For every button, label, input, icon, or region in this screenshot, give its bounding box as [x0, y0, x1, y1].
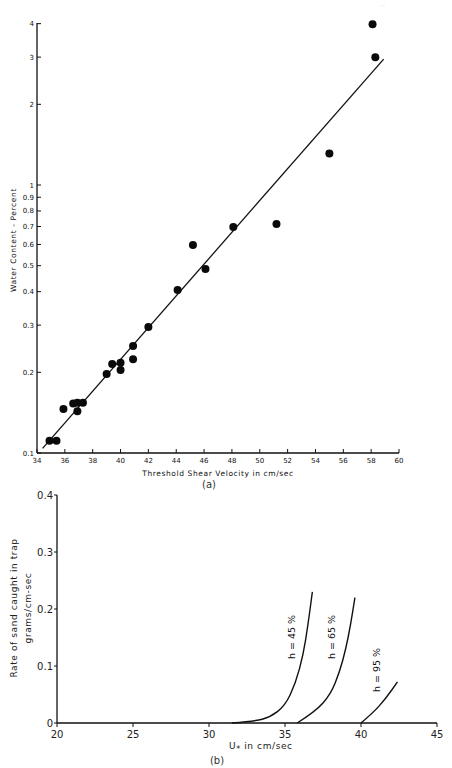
data-point	[229, 223, 237, 231]
y-tick-label-a: 0.6	[23, 241, 35, 249]
data-point	[325, 150, 333, 158]
curve-45	[232, 592, 313, 723]
y-axis-unit-b: grams/cm-sec	[23, 573, 33, 644]
y-tick-label-b: 0.4	[37, 490, 53, 501]
x-tick-label-a: 40	[116, 457, 125, 465]
x-tick-label-a: 48	[227, 457, 236, 465]
x-axis-title-a: Threshold Shear Velocity in cm/sec	[141, 469, 294, 478]
y-tick-label-a: 0.5	[23, 262, 34, 270]
curve-label: h = 45 %	[286, 615, 297, 659]
data-points-a	[46, 20, 380, 445]
data-point	[46, 437, 54, 445]
x-tick-label-b: 35	[279, 729, 292, 740]
data-point	[117, 366, 125, 374]
data-point	[52, 437, 60, 445]
y-ticks-b: 00.10.20.30.4	[37, 490, 57, 729]
x-ticks-b: 202530354045	[51, 723, 444, 740]
fit-line	[43, 59, 384, 448]
data-point	[73, 407, 81, 415]
chart-a: 0.10.20.30.40.50.60.70.80.91234 34363840…	[9, 20, 403, 490]
x-tick-label-a: 34	[33, 457, 42, 465]
data-point	[79, 399, 87, 407]
x-tick-label-a: 38	[88, 457, 97, 465]
data-point	[129, 355, 137, 363]
x-tick-label-b: 25	[127, 729, 140, 740]
data-point	[129, 342, 137, 350]
y-tick-label-a: 4	[30, 20, 35, 28]
y-tick-label-a: 0.2	[23, 369, 34, 377]
y-tick-label-b: 0.2	[37, 604, 53, 615]
y-tick-label-a: 3	[30, 54, 34, 62]
y-tick-label-b: 0.1	[37, 661, 53, 672]
data-point	[117, 359, 125, 367]
faint-header-text: ...	[380, 0, 386, 7]
y-tick-label-a: 0.9	[23, 194, 34, 202]
x-ticks-a: 3436384042444648505254565860	[33, 449, 404, 465]
y-tick-label-a: 1	[30, 182, 34, 190]
x-tick-label-a: 46	[200, 457, 209, 465]
curve-label: h = 95 %	[371, 648, 382, 692]
y-ticks-a: 0.10.20.30.40.50.60.70.80.91234	[23, 20, 41, 457]
data-point	[103, 370, 111, 378]
x-tick-label-a: 60	[395, 457, 404, 465]
x-tick-label-a: 36	[60, 457, 69, 465]
data-point	[272, 220, 280, 228]
x-tick-label-a: 52	[283, 457, 292, 465]
data-point	[369, 20, 377, 28]
data-point	[371, 53, 379, 61]
y-axis-title-a: Water Content - Percent	[9, 188, 18, 292]
data-point	[144, 323, 152, 331]
x-tick-label-b: 30	[203, 729, 216, 740]
data-point	[189, 241, 197, 249]
y-tick-label-a: 0.7	[23, 223, 34, 231]
curve-label: h = 65 %	[326, 615, 337, 659]
y-tick-label-b: 0.3	[37, 547, 53, 558]
caption-a: (a)	[202, 479, 216, 490]
x-tick-label-a: 44	[172, 457, 181, 465]
data-point	[174, 286, 182, 294]
x-tick-label-a: 58	[367, 457, 376, 465]
caption-b: (b)	[210, 755, 224, 766]
x-tick-label-b: 40	[355, 729, 368, 740]
figure: ... 0.10.20.30.40.50.60.70.80.91234 3436…	[0, 0, 452, 768]
data-point	[108, 360, 116, 368]
x-tick-label-b: 45	[431, 729, 444, 740]
y-tick-label-a: 0.3	[23, 322, 34, 330]
y-tick-label-a: 0.4	[23, 288, 35, 296]
x-tick-label-a: 50	[255, 457, 264, 465]
y-axis-title-b: Rate of sand caught in trap	[9, 538, 19, 677]
x-axis-title-b: U* in cm/sec	[229, 741, 293, 754]
x-tick-label-a: 42	[144, 457, 153, 465]
data-point	[59, 405, 67, 413]
y-tick-label-a: 2	[30, 101, 34, 109]
data-point	[201, 265, 209, 273]
curves-b: h = 45 %h = 65 %h = 95 %	[232, 592, 398, 723]
y-tick-label-a: 0.8	[23, 207, 34, 215]
y-tick-label-b: 0	[47, 718, 53, 729]
x-tick-label-b: 20	[51, 729, 64, 740]
chart-b: 00.10.20.30.4 202530354045 h = 45 %h = 6…	[9, 490, 443, 767]
x-tick-label-a: 56	[339, 457, 348, 465]
x-tick-label-a: 54	[311, 457, 320, 465]
